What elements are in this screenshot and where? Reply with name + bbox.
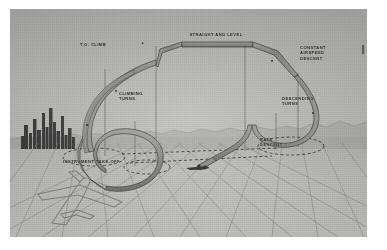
city-skyline <box>21 108 75 149</box>
scene-vector-layer <box>10 9 367 237</box>
label-descending-turns: DESCENDING TURNS <box>282 96 314 107</box>
page-edge-artifact <box>362 45 364 54</box>
perspective-ground-grid <box>10 143 367 237</box>
label-rate-descent: RATE DESCENT <box>260 137 283 148</box>
label-straight-and-level: STRAIGHT AND LEVEL <box>173 32 259 37</box>
label-climbing-turns: CLIMBING TURNS <box>119 91 143 102</box>
label-constant-airspeed-descent: CONSTANT AIRSPEED DESCENT <box>300 45 326 61</box>
label-takeoff-climb: T.O. CLIMB <box>80 42 106 47</box>
diagram-plate: T.O. CLIMB STRAIGHT AND LEVEL CONSTANT A… <box>10 9 367 237</box>
parked-airplane-outline <box>38 171 122 225</box>
label-instrument-take-off: INSTRUMENT TAKE-OFF <box>63 159 120 164</box>
